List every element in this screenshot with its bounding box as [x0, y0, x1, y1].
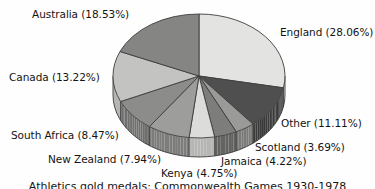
pie-slice-side-new-zealand: [181, 137, 184, 156]
pie-slice-side-other: [274, 104, 275, 125]
pie-slice-side-kenya: [200, 138, 203, 157]
pie-slice-side-jamaica: [217, 136, 220, 155]
pie-slices-group: England (28.06%)Other (11.11%)Scotland (…: [113, 14, 285, 157]
pie-slice-side-other: [278, 98, 279, 119]
slice-label-australia: Australia (18.53%): [32, 8, 129, 20]
pie-slice-side-scotland: [246, 127, 248, 147]
pie-slice-side-other: [280, 94, 281, 115]
slice-label-other: Other (11.11%): [281, 117, 362, 129]
pie-slice-side-south-africa: [129, 112, 131, 133]
pie-slice-side-new-zealand: [152, 128, 154, 148]
pie-slice-side-south-africa: [143, 123, 145, 143]
pie-slice-side-canada: [117, 96, 118, 117]
pie-slice-side-canada: [116, 91, 117, 112]
pie-slice-side-jamaica: [231, 133, 234, 153]
pie-slice-side-other: [268, 112, 270, 133]
pie-slice-side-other: [281, 92, 282, 113]
pie-slice-side-other: [276, 102, 277, 123]
pie-slice-england[interactable]: England (28.06%): [199, 14, 285, 88]
pie-slice-side-other: [262, 117, 264, 138]
pie-slice-side-new-zealand: [154, 129, 156, 149]
pie-slice-side-south-africa: [126, 109, 128, 130]
pie-slice-side-new-zealand: [159, 131, 162, 151]
pie-slice-side-new-zealand: [157, 130, 160, 150]
pie-slice-side-south-africa: [135, 117, 137, 138]
pie-slice-side-kenya: [203, 138, 206, 157]
figure-caption: Athletics gold medals: Commonwealth Game…: [0, 181, 375, 189]
pie-slice-side-south-africa: [128, 111, 130, 132]
pie-slice-side-other: [273, 106, 275, 127]
pie-slice-side-south-africa: [138, 120, 140, 140]
pie-slice-side-south-africa: [123, 105, 124, 126]
pie-slice-side-new-zealand: [170, 134, 173, 154]
pie-slice-side-new-zealand: [183, 137, 186, 156]
pie-slice-side-south-africa: [131, 114, 133, 135]
pie-slice-side-new-zealand: [175, 136, 178, 156]
pie-slice-side-other: [271, 108, 273, 129]
pie-slice-side-south-africa: [141, 121, 143, 141]
pie-slice-side-other: [255, 121, 257, 141]
pie-slice-side-jamaica: [226, 134, 229, 154]
pie-slice-side-canada: [116, 93, 117, 114]
pie-slice-side-other: [269, 110, 271, 131]
slice-label-kenya: Kenya (4.75%): [161, 167, 237, 179]
pie-slice-side-kenya: [209, 137, 212, 156]
slice-label-jamaica: Jamaica (4.22%): [221, 155, 306, 167]
pie-slice-side-other: [260, 118, 262, 139]
slice-label-canada: Canada (13.22%): [9, 71, 100, 83]
pie-slice-side-new-zealand: [164, 133, 167, 153]
pie-slice-side-south-africa: [133, 115, 135, 136]
pie-slice-side-kenya: [206, 138, 209, 157]
pie-slice-side-jamaica: [220, 136, 223, 156]
pie-slice-side-new-zealand: [178, 136, 181, 155]
pie-slice-side-other: [279, 96, 280, 117]
slice-label-new-zealand: New Zealand (7.94%): [48, 153, 161, 165]
pie-slice-side-scotland: [244, 128, 246, 148]
slice-label-england: England (28.06%): [280, 26, 373, 38]
pie-slice-side-other: [258, 120, 260, 141]
pie-slice-side-jamaica: [228, 134, 231, 154]
pie-slice-side-scotland: [241, 129, 243, 149]
pie-slice-side-kenya: [192, 138, 195, 157]
slice-label-scotland: Scotland (3.69%): [255, 141, 345, 153]
pie-chart-figure: England (28.06%)Other (11.11%)Scotland (…: [0, 0, 375, 189]
pie-slice-side-south-africa: [125, 107, 126, 128]
pie-slice-side-jamaica: [223, 135, 226, 155]
pie-slice-side-scotland: [239, 130, 242, 150]
pie-slice-side-south-africa: [145, 124, 147, 144]
pie-slice-side-canada: [118, 98, 119, 119]
pie-slice-side-south-africa: [122, 103, 123, 124]
pie-slice-side-new-zealand: [172, 135, 175, 155]
pie-slice-side-other: [266, 113, 268, 134]
slice-label-south-africa: South Africa (8.47%): [11, 129, 119, 141]
pie-slice-side-kenya: [195, 138, 198, 157]
pie-slice-side-other: [264, 115, 266, 136]
pie-slice-side-kenya: [198, 138, 201, 157]
pie-slice-side-south-africa: [136, 119, 138, 139]
pie-slice-side-scotland: [249, 125, 251, 145]
pie-slice-side-new-zealand: [162, 132, 165, 152]
pie-slice-side-other: [277, 100, 278, 121]
pie-slice-side-new-zealand: [167, 134, 170, 154]
